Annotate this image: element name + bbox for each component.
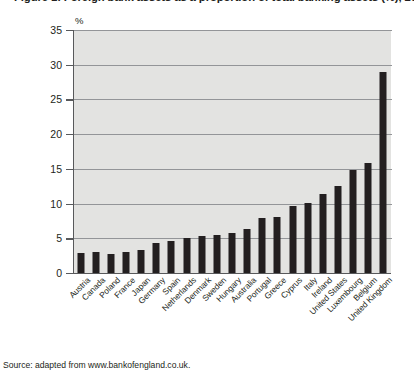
y-tick-10 xyxy=(66,204,73,205)
y-axis-label-5: 5 xyxy=(22,232,62,244)
bar-slot xyxy=(73,30,88,273)
source-note: Source: adapted from www.bankofengland.c… xyxy=(3,360,190,370)
y-axis-label-15: 15 xyxy=(22,163,62,175)
bar-slot xyxy=(300,30,315,273)
bar-slot xyxy=(315,30,330,273)
bar-slot xyxy=(361,30,376,273)
y-tick-20 xyxy=(66,134,73,135)
bar xyxy=(274,217,281,273)
bar xyxy=(213,235,220,273)
bar-slot xyxy=(118,30,133,273)
bar xyxy=(153,243,160,273)
bar-slot xyxy=(149,30,164,273)
bar-slot xyxy=(255,30,270,273)
bar xyxy=(289,206,296,273)
bar-slot xyxy=(103,30,118,273)
y-axis-label-20: 20 xyxy=(22,128,62,140)
y-axis-label-30: 30 xyxy=(22,59,62,71)
bar-slot xyxy=(376,30,391,273)
bar xyxy=(350,170,357,273)
bar-slot xyxy=(209,30,224,273)
bar-slot xyxy=(194,30,209,273)
y-tick-30 xyxy=(66,65,73,66)
bar xyxy=(259,218,266,273)
bar xyxy=(380,72,387,273)
bar xyxy=(107,254,114,273)
bar-series xyxy=(73,30,391,273)
bar-slot xyxy=(88,30,103,273)
y-tick-25 xyxy=(66,99,73,100)
y-axis-label-10: 10 xyxy=(22,198,62,210)
y-tick-15 xyxy=(66,169,73,170)
y-axis-label-35: 35 xyxy=(22,24,62,36)
bar xyxy=(122,252,129,273)
bar xyxy=(228,233,235,273)
x-axis-labels: AustriaCanadaPolandFranceJapanGermanySpa… xyxy=(73,275,403,370)
bar xyxy=(365,163,372,273)
bar xyxy=(92,252,99,273)
bar xyxy=(183,238,190,273)
bar-slot xyxy=(330,30,345,273)
y-axis-label-25: 25 xyxy=(22,93,62,105)
bar xyxy=(168,241,175,273)
y-axis-label-0: 0 xyxy=(22,267,62,279)
bar-slot xyxy=(164,30,179,273)
bar xyxy=(244,229,251,273)
y-tick-0 xyxy=(66,273,73,274)
bar xyxy=(334,186,341,273)
bar-slot xyxy=(134,30,149,273)
bar-slot xyxy=(285,30,300,273)
bar xyxy=(77,253,84,273)
y-tick-35 xyxy=(66,30,73,31)
bar-slot xyxy=(179,30,194,273)
y-tick-5 xyxy=(66,238,73,239)
bar-slot xyxy=(224,30,239,273)
bar xyxy=(198,236,205,273)
bar xyxy=(138,250,145,273)
bar xyxy=(304,203,311,273)
bar-slot xyxy=(240,30,255,273)
bar xyxy=(319,194,326,273)
chart-title: Figure 1: Foreign bank assets as a propo… xyxy=(14,0,414,3)
y-axis-unit-label: % xyxy=(75,15,83,26)
bar-slot xyxy=(270,30,285,273)
bar-slot xyxy=(346,30,361,273)
